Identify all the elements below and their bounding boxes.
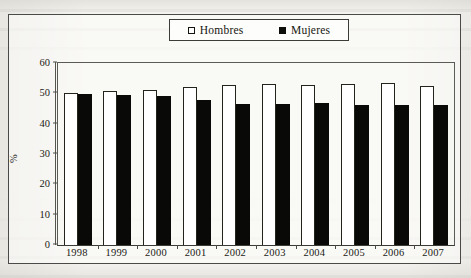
y-tick-40: 40 — [32, 117, 57, 128]
legend-label-mujeres: Mujeres — [291, 24, 330, 36]
x-tick-label-2007: 2007 — [413, 247, 453, 258]
bar-hombres-2000 — [143, 90, 157, 245]
bar-group-2003 — [256, 63, 296, 245]
y-axis-ticks: 6050403020100 — [29, 62, 57, 245]
bar-hombres-2006 — [381, 83, 395, 245]
bar-group-2001 — [177, 63, 217, 245]
bar-group-2004 — [296, 63, 336, 245]
bar-group-2007 — [414, 63, 454, 245]
x-tick-label-2006: 2006 — [374, 247, 414, 258]
y-tick-10: 10 — [32, 208, 57, 219]
y-tick-60: 60 — [32, 57, 57, 68]
chart-legend: Hombres Mujeres — [169, 19, 349, 41]
bar-hombres-2002 — [222, 85, 236, 245]
x-tick-label-2005: 2005 — [334, 247, 374, 258]
y-tick-30: 30 — [32, 148, 57, 159]
bar-mujeres-1998 — [78, 94, 92, 245]
x-tick-label-1998: 1998 — [57, 247, 97, 258]
bar-group-2005 — [335, 63, 375, 245]
plot-area — [57, 62, 455, 246]
bar-group-1998 — [58, 63, 98, 245]
bar-hombres-1999 — [103, 91, 117, 245]
y-axis-title: % — [8, 154, 19, 163]
bar-mujeres-1999 — [117, 95, 131, 245]
bar-mujeres-2004 — [315, 103, 329, 245]
bar-mujeres-2001 — [197, 100, 211, 245]
y-tick-label: 20 — [32, 178, 50, 189]
filled-square-icon — [279, 27, 286, 34]
legend-label-hombres: Hombres — [200, 24, 244, 36]
bar-group-2000 — [137, 63, 177, 245]
x-tick-label-2003: 2003 — [255, 247, 295, 258]
x-tick-label-2000: 2000 — [136, 247, 176, 258]
bar-mujeres-2002 — [236, 104, 250, 245]
bar-group-2002 — [216, 63, 256, 245]
hollow-square-icon — [188, 27, 195, 34]
bar-mujeres-2000 — [157, 96, 171, 245]
bar-hombres-2003 — [262, 84, 276, 245]
bar-hombres-1998 — [64, 93, 78, 245]
x-axis-ticks: 1998199920002001200220032004200520062007 — [57, 247, 453, 258]
y-tick-label: 60 — [32, 57, 50, 68]
x-tick-label-2004: 2004 — [295, 247, 335, 258]
x-tick-label-1999: 1999 — [97, 247, 137, 258]
x-tick-label-2002: 2002 — [215, 247, 255, 258]
y-tick-0: 0 — [32, 239, 57, 250]
y-tick-20: 20 — [32, 178, 57, 189]
bar-group-2006 — [375, 63, 415, 245]
bar-group-1999 — [98, 63, 138, 245]
legend-item-mujeres: Mujeres — [279, 24, 330, 36]
bar-mujeres-2007 — [434, 105, 448, 245]
bar-groups — [58, 63, 454, 245]
chart-figure-frame: Hombres Mujeres % 6050403020100 19981999… — [8, 14, 461, 264]
y-tick-label: 10 — [32, 208, 50, 219]
y-tick-label: 50 — [32, 87, 50, 98]
bar-hombres-2007 — [420, 86, 434, 245]
bar-hombres-2005 — [341, 84, 355, 245]
bar-mujeres-2003 — [276, 104, 290, 245]
x-tick-label-2001: 2001 — [176, 247, 216, 258]
bar-mujeres-2006 — [395, 105, 409, 245]
legend-item-hombres: Hombres — [188, 24, 244, 36]
y-tick-label: 0 — [32, 239, 50, 250]
bar-hombres-2001 — [183, 87, 197, 245]
y-tick-50: 50 — [32, 87, 57, 98]
bar-mujeres-2005 — [355, 105, 369, 245]
y-tick-label: 40 — [32, 117, 50, 128]
y-tick-label: 30 — [32, 148, 50, 159]
bar-hombres-2004 — [301, 85, 315, 245]
